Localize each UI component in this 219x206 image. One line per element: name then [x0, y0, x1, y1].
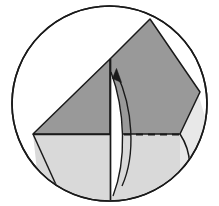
geometric-figure — [0, 0, 219, 206]
figure-container — [0, 0, 219, 206]
lower-light-flap-shape — [33, 134, 180, 202]
